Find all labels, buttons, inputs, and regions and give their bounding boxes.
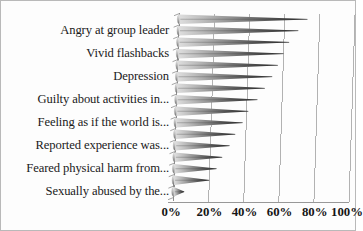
y-tick [168,198,174,200]
x-tick-label: 80% [302,206,328,219]
bar-cone [172,187,185,196]
bar-cone [174,118,243,127]
gridline-80 [314,14,320,202]
category-label: Feared physical harm from... [26,162,169,175]
x-tick-label: 20% [197,206,223,219]
x-tick-label: 0% [162,206,181,219]
x-tick-label: 40% [232,206,258,219]
category-label: Angry at group leader [60,24,169,37]
bar-cone [177,38,290,47]
bar-cone [177,26,298,35]
category-label: Depression [113,70,169,83]
category-label: Reported experience was... [36,139,169,152]
bar-cone [175,95,258,104]
bar-series [172,15,308,197]
bar-cone [176,49,283,58]
bar-cone [176,61,278,70]
gridline-100 [349,14,355,202]
bar-cone [175,84,265,93]
bar-cone [175,72,272,81]
bar-cone [173,141,229,150]
bar-cone [174,130,236,139]
x-tick-label: 100% [331,206,363,219]
category-label: Vivid flashbacks [86,47,169,60]
category-label: Feeling as if the world is... [38,116,169,129]
bar-cone [172,176,209,185]
category-label: Guilty about activities in... [38,93,169,106]
bar-cone [177,15,307,24]
x-tick-label: 60% [267,206,293,219]
category-label: Sexually abused by the... [46,185,169,198]
bar-cone [173,153,222,162]
